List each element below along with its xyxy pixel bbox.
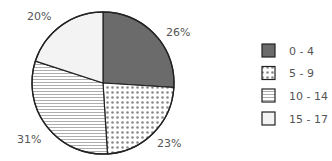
percent-label-0-4: 26% xyxy=(166,26,190,39)
legend-swatch-10-14 xyxy=(262,89,275,102)
legend-swatch-0-4 xyxy=(262,44,275,57)
percent-label-10-14: 31% xyxy=(17,133,41,146)
pie-slices xyxy=(32,12,174,154)
legend-label-15-17: 15 - 17 xyxy=(289,113,328,126)
slice-0-4 xyxy=(103,12,174,87)
legend-swatch-15-17 xyxy=(262,112,275,125)
legend: 0 - 45 - 910 - 1415 - 17 xyxy=(262,44,328,126)
pie-chart: 26%23%31%20% 0 - 45 - 910 - 1415 - 17 xyxy=(0,0,332,161)
legend-label-0-4: 0 - 4 xyxy=(289,45,314,58)
legend-label-5-9: 5 - 9 xyxy=(289,67,314,80)
percent-label-5-9: 23% xyxy=(157,137,181,150)
legend-swatch-5-9 xyxy=(262,67,275,80)
legend-label-10-14: 10 - 14 xyxy=(289,90,328,103)
percent-label-15-17: 20% xyxy=(27,10,51,23)
